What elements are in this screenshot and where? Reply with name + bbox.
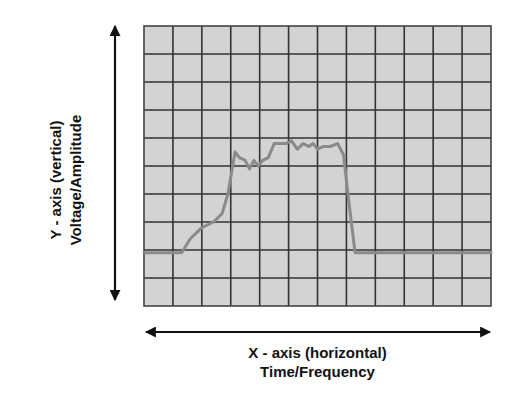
- y-axis-label-container: Y - axis (vertical) Voltage/Amplitude: [36, 60, 96, 300]
- y-axis-title: Y - axis (vertical): [46, 115, 66, 246]
- x-axis-subtitle: Time/Frequency: [144, 362, 491, 381]
- x-axis-label: X - axis (horizontal) Time/Frequency: [144, 343, 491, 381]
- y-axis-label: Y - axis (vertical) Voltage/Amplitude: [46, 115, 86, 246]
- x-axis-title: X - axis (horizontal): [144, 343, 491, 362]
- y-axis-subtitle: Voltage/Amplitude: [66, 115, 86, 246]
